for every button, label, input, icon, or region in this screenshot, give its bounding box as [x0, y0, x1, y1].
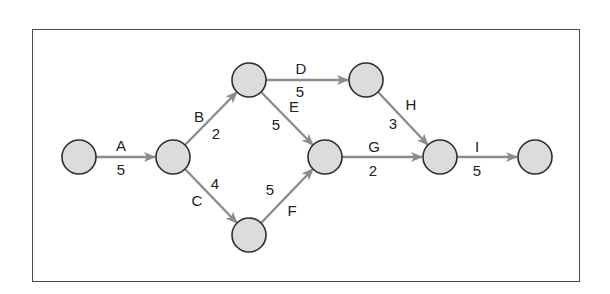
edge-labels: A 5 B 2 C 4 D 5 E 5 F 5 G 2 H 3 I 5: [116, 60, 481, 219]
edge-e-label: E: [289, 98, 299, 115]
edge-a-label: A: [116, 137, 126, 154]
edge-d-label: D: [296, 60, 307, 77]
edge-b-label: B: [194, 108, 204, 125]
edge-a-duration: 5: [117, 161, 125, 178]
edge-h-duration: 3: [389, 115, 397, 132]
edge-e-arrow: [261, 92, 313, 145]
edge-h-label: H: [406, 96, 417, 113]
network-diagram: A 5 B 2 C 4 D 5 E 5 F 5 G 2 H 3 I 5: [0, 0, 610, 294]
edge-h-arrow: [378, 92, 428, 145]
edge-g-label: G: [368, 138, 380, 155]
edge-i-label: I: [475, 138, 479, 155]
node-2: [156, 140, 190, 174]
node-3: [232, 63, 266, 97]
edge-b-duration: 2: [212, 125, 220, 142]
node-6: [232, 218, 266, 252]
edge-i-duration: 5: [473, 162, 481, 179]
node-5: [308, 140, 342, 174]
edge-f-label: F: [287, 202, 296, 219]
node-7: [423, 140, 457, 174]
edge-e-duration: 5: [272, 116, 280, 133]
edge-f-duration: 5: [266, 181, 274, 198]
edge-c-label: C: [192, 192, 203, 209]
node-4: [349, 63, 383, 97]
edge-g-duration: 2: [369, 162, 377, 179]
node-1: [62, 140, 96, 174]
edge-c-duration: 4: [211, 175, 219, 192]
node-8: [518, 140, 552, 174]
